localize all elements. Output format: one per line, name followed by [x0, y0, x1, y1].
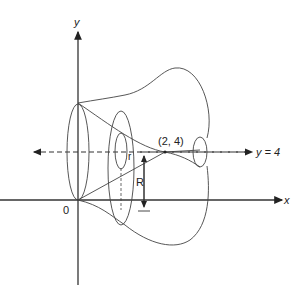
diagram: y x 0 (2, 4) y = 4 r R — [0, 0, 296, 291]
x-axis-label: x — [284, 195, 290, 206]
upper-surface — [78, 68, 209, 138]
line-label: y = 4 — [256, 147, 280, 158]
line-origin-to-point — [78, 150, 200, 200]
solid-of-revolution-figure — [0, 0, 296, 291]
ellipse-inner-slice — [115, 133, 127, 169]
point-label: (2, 4) — [158, 136, 184, 147]
y-axis-label: y — [74, 17, 80, 28]
outer-radius-label: R — [136, 177, 144, 188]
inner-radius-label: r — [128, 152, 131, 162]
point-2-4 — [163, 150, 166, 153]
origin-label: 0 — [63, 205, 69, 216]
